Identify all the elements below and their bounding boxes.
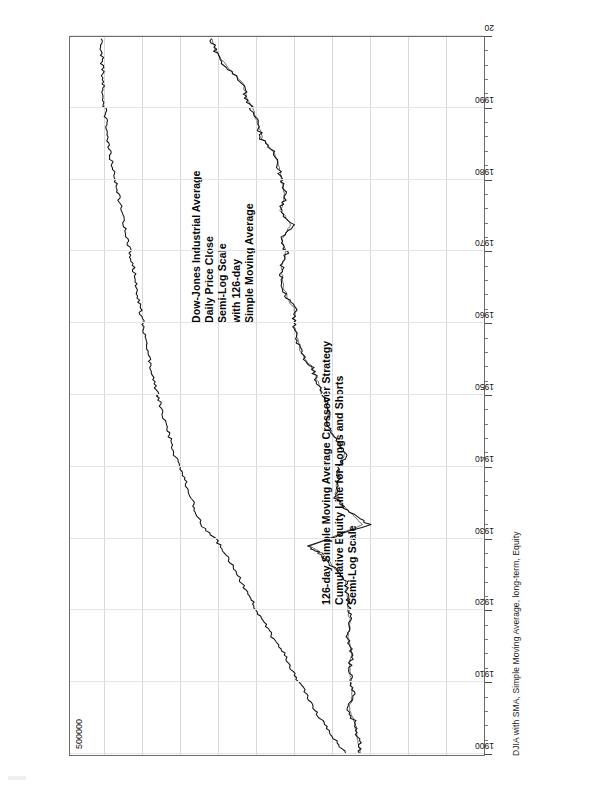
chart-figure: DJIA with SMA, Simple Moving Average, lo… — [45, 34, 547, 756]
vertical-gridline — [70, 35, 484, 36]
x-axis-tick-label: 1930 — [475, 526, 494, 536]
x-axis-minor-tick — [485, 280, 488, 281]
annotation-equity-line-3: Semi-Log Scale — [346, 341, 359, 605]
x-axis-tick-label: 1940 — [475, 454, 494, 464]
x-axis-tick-label: 1960 — [475, 310, 494, 320]
vertical-gridline — [70, 322, 484, 323]
x-axis-tick — [485, 323, 492, 324]
annotation-equity-line-2: Cumulative Equity Line for Longs and Sho… — [333, 341, 346, 605]
annotation-equity-line-1: 126-day Simple Moving Average Crossover … — [320, 341, 333, 605]
x-axis-tick-label: 1990 — [475, 95, 494, 105]
annotation-djia-line-5: Simple Moving Average — [243, 170, 256, 323]
x-axis-minor-tick — [485, 697, 488, 698]
x-axis-tick — [485, 108, 492, 109]
annotation-djia-line-2: Daily Price Close — [203, 170, 216, 323]
vertical-gridline — [70, 609, 484, 610]
page-canvas: DJIA with SMA, Simple Moving Average, lo… — [0, 0, 592, 790]
x-axis-minor-tick — [485, 510, 488, 511]
x-axis-minor-tick — [485, 496, 488, 497]
vertical-gridline — [70, 681, 484, 682]
x-axis-minor-tick — [485, 50, 488, 51]
x-axis-tick — [485, 36, 492, 37]
x-axis-minor-tick — [485, 122, 488, 123]
x-axis-minor-tick — [485, 137, 488, 138]
vertical-gridline — [70, 466, 484, 467]
x-axis-minor-tick — [485, 481, 488, 482]
x-axis: 1900191019201930194019501960197019801990… — [485, 36, 531, 756]
vertical-gridline — [70, 250, 484, 251]
x-axis-minor-tick — [485, 424, 488, 425]
x-axis-tick-label: 1950 — [475, 382, 494, 392]
vertical-gridline — [70, 107, 484, 108]
x-axis-tick-label: 1910 — [475, 669, 494, 679]
x-axis-minor-tick — [485, 79, 488, 80]
x-axis-minor-tick — [485, 711, 488, 712]
x-axis-minor-tick — [485, 295, 488, 296]
x-axis-minor-tick — [485, 208, 488, 209]
x-axis-minor-tick — [485, 438, 488, 439]
chart-curves — [70, 37, 484, 755]
x-axis-tick-label: 1900 — [475, 741, 494, 751]
vertical-gridline — [70, 538, 484, 539]
vertical-gridline — [70, 753, 484, 754]
x-axis-minor-tick — [485, 567, 488, 568]
scan-artifact — [8, 776, 26, 780]
x-axis-tick — [485, 754, 492, 755]
x-axis-tick — [485, 682, 492, 683]
x-axis-tick — [485, 251, 492, 252]
equity-line-series — [100, 39, 345, 753]
x-axis-minor-tick — [485, 582, 488, 583]
annotation-equity-strategy: 126-day Simple Moving Average Crossover … — [320, 341, 360, 605]
x-axis-tick — [485, 467, 492, 468]
x-axis-minor-tick — [485, 65, 488, 66]
annotation-djia-line-4: with 126-day — [230, 170, 243, 323]
x-axis-minor-tick — [485, 625, 488, 626]
x-axis-minor-tick — [485, 639, 488, 640]
x-axis-tick-label: 1980 — [475, 167, 494, 177]
x-axis-tick-label: 1920 — [475, 597, 494, 607]
x-axis-minor-tick — [485, 654, 488, 655]
x-axis-minor-tick — [485, 223, 488, 224]
x-axis-tick-label: 1970 — [475, 238, 494, 248]
annotation-djia: Dow-Jones Industrial Average Daily Price… — [190, 170, 256, 323]
vertical-gridline — [70, 179, 484, 180]
annotation-djia-line-1: Dow-Jones Industrial Average — [190, 170, 203, 323]
vertical-gridline — [70, 394, 484, 395]
x-axis-minor-tick — [485, 194, 488, 195]
x-axis-minor-tick — [485, 266, 488, 267]
x-axis-minor-tick — [485, 409, 488, 410]
annotation-djia-line-3: Semi-Log Scale — [216, 170, 229, 323]
x-axis-minor-tick — [485, 553, 488, 554]
x-axis-minor-tick — [485, 338, 488, 339]
x-axis-tick — [485, 539, 492, 540]
x-axis-minor-tick — [485, 725, 488, 726]
x-axis-tick — [485, 610, 492, 611]
x-axis-tick — [485, 180, 492, 181]
plot-area: 500000 126-day Simple Moving Average Cro… — [69, 36, 485, 756]
x-axis-minor-tick — [485, 352, 488, 353]
x-axis-tick — [485, 395, 492, 396]
x-axis-minor-tick — [485, 151, 488, 152]
x-axis-minor-tick — [485, 366, 488, 367]
x-axis-tick-label: 20 — [485, 23, 494, 33]
